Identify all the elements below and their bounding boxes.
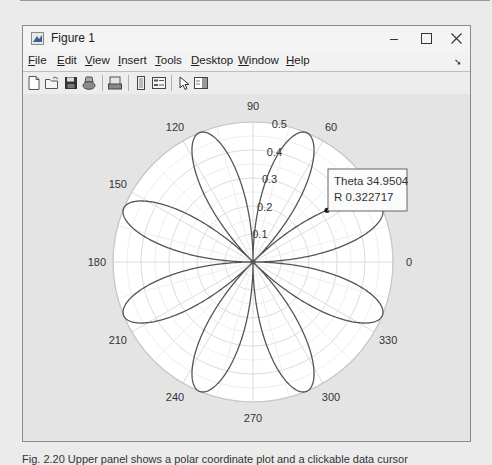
menu-desktop[interactable]: Desktop [191,54,233,66]
insert-legend-button[interactable] [151,75,167,91]
matlab-figure-icon [31,32,44,45]
theta-tick-label: 150 [109,178,127,190]
close-button[interactable] [441,28,471,48]
datatip-r: R 0.322717 [334,191,393,203]
theta-tick-label: 210 [109,334,127,346]
menu-desktop-rest: esktop [199,54,233,66]
theta-tick-label: 270 [244,412,262,424]
menu-insert-rest: nsert [121,54,147,66]
plot-tools-icon [193,75,209,91]
figure-caption: Fig. 2.20 Upper panel shows a polar coor… [22,453,408,465]
menu-help-rest: elp [294,54,309,66]
theta-tick-label: 60 [325,121,337,133]
plot-area[interactable]: 060901201501802102402703003300.10.20.30.… [23,94,470,441]
link-plot-icon [107,75,123,91]
menu-help[interactable]: Help [286,54,310,66]
print-icon [81,75,97,91]
save-figure-button[interactable] [63,75,79,91]
insert-colorbar-button[interactable] [133,75,149,91]
theta-tick-label: 180 [88,256,106,268]
menu-window-mnemonic: W [238,54,249,66]
new-file-icon [26,75,42,91]
show-plot-tools-button[interactable] [193,75,209,91]
figure-window: Figure 1 – File Edit View Insert Tools D… [22,25,471,442]
menu-window-rest: indow [249,54,279,66]
menu-insert[interactable]: Insert [118,54,147,66]
theta-tick-label: 300 [322,391,340,403]
menu-view[interactable]: View [85,54,110,66]
save-disk-icon [63,75,79,91]
menu-bar: File Edit View Insert Tools Desktop Wind… [23,52,470,71]
menu-tools[interactable]: Tools [155,54,182,66]
maximize-button[interactable] [411,28,441,48]
dock-arrow-icon[interactable]: ➘ [454,57,462,67]
data-cursor[interactable]: Theta 34.9504R 0.322717 [324,169,408,213]
theta-tick-label: 0 [406,256,412,268]
menu-edit-mnemonic: E [57,54,65,66]
polar-plot[interactable]: 060901201501802102402703003300.10.20.30.… [23,94,470,441]
edit-plot-button[interactable] [176,75,192,91]
menu-edit-rest: dit [65,54,77,66]
r-tick-label: 0.3 [262,173,277,185]
datatip-theta: Theta 34.9504 [334,175,409,187]
minimize-button[interactable]: – [379,28,409,48]
toolbar-separator [102,75,103,91]
toolbar-separator [171,75,172,91]
theta-tick-label: 330 [379,334,397,346]
polar-origin [251,260,256,265]
open-folder-icon [44,75,60,91]
new-figure-button[interactable] [26,75,42,91]
window-title: Figure 1 [51,31,95,45]
open-file-button[interactable] [44,75,60,91]
menu-file-rest: ile [35,54,47,66]
r-tick-label: 0.5 [272,118,287,130]
menu-file[interactable]: File [28,54,47,66]
figure-toolbar [23,71,470,95]
pointer-arrow-icon [176,75,192,91]
menu-tools-rest: ools [161,54,182,66]
toolbar-separator [128,75,129,91]
menu-edit[interactable]: Edit [57,54,77,66]
print-figure-button[interactable] [81,75,97,91]
link-plot-button[interactable] [107,75,123,91]
theta-tick-label: 240 [166,391,184,403]
colorbar-icon [133,75,149,91]
menu-file-mnemonic: F [28,54,35,66]
menu-window[interactable]: Window [238,54,279,66]
theta-tick-label: 120 [166,121,184,133]
legend-icon [151,75,167,91]
theta-tick-label: 90 [247,100,259,112]
menu-view-rest: iew [92,54,109,66]
page-rule [20,0,490,1]
close-icon [451,33,462,44]
maximize-icon [421,33,432,44]
title-bar[interactable]: Figure 1 – [23,26,470,51]
